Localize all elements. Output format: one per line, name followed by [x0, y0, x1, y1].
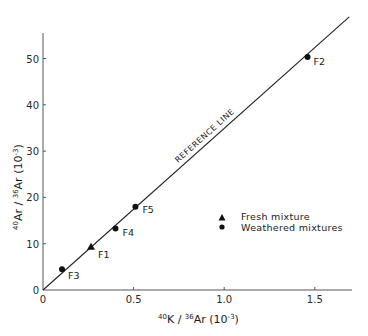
x-axis-label: 40K / 36Ar (10-3) [158, 313, 239, 326]
legend-circle-icon [219, 224, 224, 229]
circle-marker-icon [112, 225, 118, 231]
legend-triangle-icon [219, 214, 226, 221]
circle-marker-icon [59, 266, 65, 272]
y-tick-label: 30 [26, 146, 39, 157]
point-label: F1 [98, 249, 110, 260]
triangle-marker-icon [87, 243, 95, 250]
legend: Fresh mixture Weathered mixtures [219, 211, 343, 233]
circle-marker-icon [132, 204, 138, 210]
y-axis-label: 40Ar / 36Ar (10-3) [12, 144, 25, 230]
y-tick-label: 50 [26, 54, 39, 65]
data-points: F1F2F3F4F5 [59, 54, 325, 281]
x-tick-label: 0 [40, 294, 46, 305]
y-tick-label: 0 [33, 285, 39, 296]
y-tick-label: 20 [26, 192, 39, 203]
chart-container: 01020304050 00.51.01.5 REFERENCE LINE F1… [0, 0, 368, 336]
reference-line-label: REFERENCE LINE [173, 107, 236, 165]
point-label: F5 [142, 204, 154, 215]
point-label: F2 [314, 56, 326, 67]
point-label: F3 [68, 270, 80, 281]
x-tick-label: 0.5 [126, 294, 142, 305]
legend-label-fresh: Fresh mixture [241, 211, 310, 222]
y-tick-label: 40 [26, 100, 39, 111]
circle-marker-icon [305, 54, 311, 60]
point-label: F4 [122, 227, 134, 238]
scatter-chart: 01020304050 00.51.01.5 REFERENCE LINE F1… [0, 0, 368, 336]
y-tick-label: 10 [26, 239, 39, 250]
x-tick-label: 1.0 [216, 294, 232, 305]
legend-label-weathered: Weathered mixtures [241, 222, 343, 233]
x-tick-label: 1.5 [307, 294, 323, 305]
